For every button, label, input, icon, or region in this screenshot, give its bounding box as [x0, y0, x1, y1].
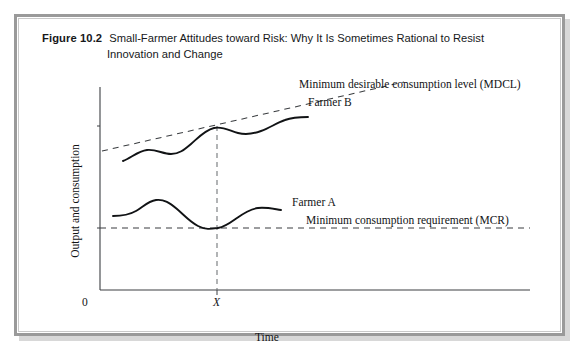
- annotation-mcr: Minimum consumption requirement (MCR): [306, 215, 509, 227]
- figure-container: Figure 10.2Small-Farmer Attitudes toward…: [0, 0, 585, 356]
- annotation-farmer-a: Farmer A: [292, 197, 336, 209]
- y-axis-title: Output and consumption: [69, 121, 81, 281]
- figure-caption-line2: Innovation and Change: [107, 46, 532, 62]
- figure-frame-inner: [18, 18, 561, 332]
- origin-tick-label: 0: [82, 296, 88, 308]
- annotation-farmer-b: Farmer B: [308, 97, 352, 109]
- figure-caption: Figure 10.2Small-Farmer Attitudes toward…: [42, 30, 532, 62]
- x-axis-title: Time: [255, 331, 279, 343]
- figure-caption-line1: Small-Farmer Attitudes toward Risk: Why …: [109, 32, 484, 44]
- annotation-mdcl: Minimum desirable consumption level (MDC…: [299, 79, 521, 91]
- figure-number: Figure 10.2: [42, 32, 102, 44]
- x-tick-label: X: [213, 296, 220, 308]
